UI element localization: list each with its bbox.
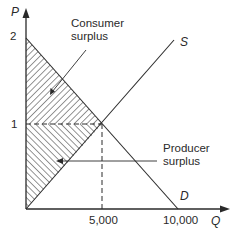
demand-label: D bbox=[180, 189, 189, 203]
x-axis-arrow-icon bbox=[220, 206, 230, 213]
x-tick-5000: 5,000 bbox=[89, 214, 118, 226]
consumer-surplus-label-line2: surplus bbox=[71, 30, 108, 42]
consumer-surplus-label-line1: Consumer bbox=[71, 17, 124, 29]
producer-surplus-label-line1: Producer bbox=[163, 142, 210, 154]
y-axis-arrow-icon bbox=[23, 8, 30, 18]
x-tick-10000: 10,000 bbox=[163, 214, 198, 226]
x-axis-label: Q bbox=[211, 214, 220, 228]
y-tick-2: 2 bbox=[10, 30, 16, 42]
supply-label: S bbox=[180, 35, 188, 49]
y-axis-label: P bbox=[11, 5, 19, 19]
supply-demand-chart: P Q 2 1 5,000 10,000 S D Consumer surplu… bbox=[0, 0, 242, 236]
y-tick-1: 1 bbox=[11, 118, 17, 130]
producer-surplus-label-line2: surplus bbox=[163, 155, 200, 167]
